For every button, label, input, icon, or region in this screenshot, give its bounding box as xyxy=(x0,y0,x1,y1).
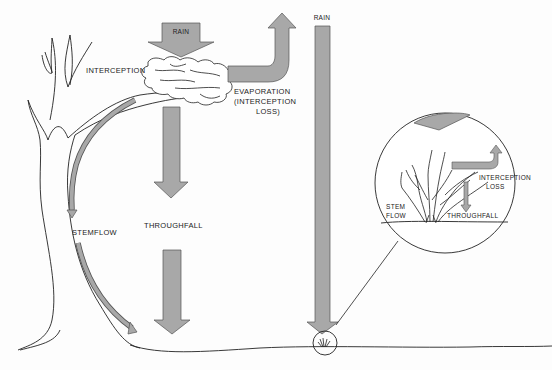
evaporation-arrow xyxy=(228,13,296,82)
rain-column-arrow xyxy=(307,26,338,334)
stemflow-arrowhead-lower xyxy=(128,322,137,334)
interception-label: INTERCEPTION xyxy=(86,66,145,75)
stemflow-label: STEMFLOW xyxy=(72,228,118,237)
evaporation-label-2: (INTERCEPTION xyxy=(234,97,296,106)
interception-diagram: RAIN INTERCEPTION EVAPORATION (INTERCEPT… xyxy=(0,0,552,370)
evaporation-label: EVAPORATION xyxy=(234,87,290,96)
magnifier-small-circle xyxy=(313,331,337,355)
stemflow-arrow-lower xyxy=(78,243,132,328)
inset-stem-label: STEM xyxy=(386,203,405,210)
inset-throughfall-label: THROUGHFALL xyxy=(447,212,498,219)
inset-loss-label: LOSS xyxy=(486,183,505,190)
throughfall-arrow-lower xyxy=(154,250,190,334)
canopy-foliage xyxy=(142,57,232,105)
inset-flow-label: FLOW xyxy=(386,212,407,219)
ground-line xyxy=(20,330,552,352)
stemflow-arrowhead-upper xyxy=(67,210,77,218)
rain-arrow-label: RAIN xyxy=(173,28,190,35)
evaporation-label-3: LOSS) xyxy=(256,107,280,116)
small-shrub-icon xyxy=(318,338,330,347)
inset-interception-label: INTERCEPTION xyxy=(479,174,531,181)
throughfall-arrow-upper xyxy=(154,107,188,198)
inset-connector-line xyxy=(336,241,398,325)
throughfall-label: THROUGHFALL xyxy=(144,221,203,230)
rain-column-label: RAIN xyxy=(314,14,331,21)
